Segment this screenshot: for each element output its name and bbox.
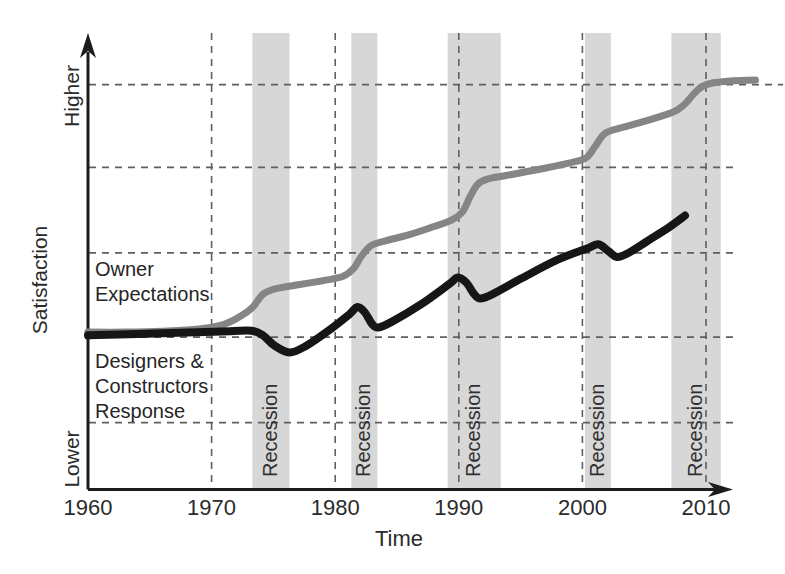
recession-label: Recession xyxy=(259,384,281,477)
x-tick-label: 2010 xyxy=(682,495,731,520)
y-axis-lower-label: Lower xyxy=(60,430,84,487)
owner-expectations-label: Owner Expectations xyxy=(95,257,210,307)
x-tick-label: 2000 xyxy=(558,495,607,520)
x-tick-label: 1990 xyxy=(434,495,483,520)
figure: 196019701980199020002010RecessionRecessi… xyxy=(0,0,785,574)
recession-label: Recession xyxy=(462,384,484,477)
y-axis-higher-label: Higher xyxy=(60,65,84,127)
recession-label: Recession xyxy=(352,384,374,477)
recession-label: Recession xyxy=(586,384,608,477)
x-axis-title: Time xyxy=(375,526,423,552)
y-axis-title: Satisfaction xyxy=(28,226,52,335)
x-tick-label: 1970 xyxy=(187,495,236,520)
x-tick-label: 1960 xyxy=(64,495,113,520)
designers-response-label: Designers & Constructors Response xyxy=(95,349,208,424)
x-tick-label: 1980 xyxy=(311,495,360,520)
recession-label: Recession xyxy=(684,384,706,477)
